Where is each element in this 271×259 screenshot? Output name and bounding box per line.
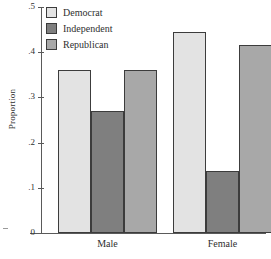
- x-axis-line: [30, 233, 266, 234]
- legend-item-democrat: Democrat: [46, 5, 166, 20]
- stray-tick-mark: [3, 228, 8, 229]
- x-axis-label-male: Male: [68, 238, 148, 249]
- y-tick-label: 0: [31, 226, 36, 239]
- legend-label-democrat: Democrat: [63, 7, 102, 19]
- y-axis-title: Proportion: [7, 69, 17, 149]
- y-tick-label: .2: [28, 136, 35, 149]
- y-tick: .1: [0, 188, 44, 189]
- chart-legend: Democrat Independent Republican: [46, 5, 166, 53]
- y-tick: .3: [0, 97, 44, 98]
- bar-male-independent: [91, 111, 124, 233]
- legend-label-independent: Independent: [63, 23, 112, 35]
- legend-swatch-democrat: [46, 7, 57, 18]
- legend-item-republican: Republican: [46, 37, 166, 52]
- x-axis-label-female: Female: [183, 238, 263, 249]
- legend-label-republican: Republican: [63, 39, 109, 51]
- y-tick-label: .4: [28, 45, 35, 58]
- bar-female-republican: [239, 45, 271, 233]
- y-tick: .5: [0, 7, 44, 8]
- bar-chart: Proportion 0.1.2.3.4.5 MaleFemale Democr…: [0, 0, 271, 259]
- y-tick: 0: [0, 233, 44, 234]
- bar-male-republican: [124, 70, 157, 233]
- y-tick-label: .3: [28, 90, 35, 103]
- legend-item-independent: Independent: [46, 21, 166, 36]
- y-tick: .4: [0, 52, 44, 53]
- y-tick: .2: [0, 143, 44, 144]
- y-tick-mark: [38, 233, 44, 234]
- bar-male-democrat: [58, 70, 91, 233]
- legend-swatch-republican: [46, 39, 57, 50]
- bar-female-independent: [206, 171, 239, 233]
- bar-female-democrat: [173, 32, 206, 233]
- y-tick-label: .1: [28, 181, 35, 194]
- y-tick-label: .5: [28, 0, 35, 13]
- legend-swatch-independent: [46, 23, 57, 34]
